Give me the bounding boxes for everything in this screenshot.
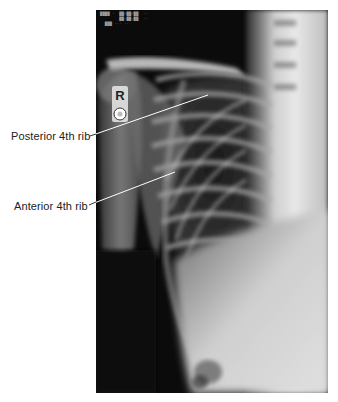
- film-header-line: ███ ··· ··: [100, 22, 129, 26]
- side-marker-r-icon: R: [110, 86, 130, 124]
- svg-text:R: R: [115, 88, 125, 103]
- radiograph-figure: ████ · ██/██/██ ·· ██:██:██ ·· ███ ··· ·…: [0, 0, 338, 402]
- label-posterior-4th-rib: Posterior 4th rib: [11, 130, 90, 142]
- leader-line-anterior-outer: [89, 202, 96, 205]
- chest-xray-image: ████ · ██/██/██ ·· ██:██:██ ·· ███ ··· ·…: [96, 10, 328, 393]
- film-header-line: ████ · ██/██/██ ··: [100, 12, 148, 16]
- label-anterior-4th-rib: Anterior 4th rib: [14, 200, 88, 212]
- film-header-line: ██:██:██ ··: [100, 17, 148, 21]
- film-header-text: ████ · ██/██/██ ·· ██:██:██ ·· ███ ··· ·…: [100, 12, 148, 27]
- xray-graphic: [96, 10, 328, 393]
